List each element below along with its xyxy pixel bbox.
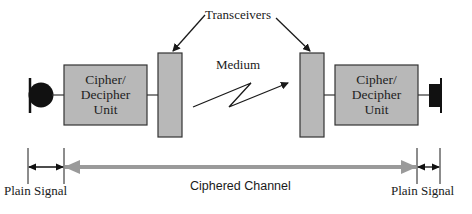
right-unit-line3: Unit	[335, 102, 418, 117]
right-unit-line2: Decipher	[335, 87, 418, 102]
speaker-icon	[429, 78, 441, 113]
right-unit-line1: Cipher/	[335, 72, 418, 87]
right-cipher-unit-label: Cipher/ Decipher Unit	[335, 72, 418, 117]
plain-signal-left-label: Plain Signal	[4, 184, 67, 197]
medium-label: Medium	[216, 58, 260, 71]
microphone-icon	[29, 78, 54, 113]
plain-signal-right-label: Plain Signal	[391, 184, 454, 197]
transceivers-pointer-right	[276, 18, 310, 51]
left-unit-line3: Unit	[64, 102, 147, 117]
left-transceiver-box	[158, 53, 182, 137]
right-transceiver-box	[300, 53, 324, 137]
left-unit-line1: Cipher/	[64, 72, 147, 87]
left-unit-line2: Decipher	[64, 87, 147, 102]
ciphered-channel-label: Ciphered Channel	[190, 180, 291, 193]
left-cipher-unit-label: Cipher/ Decipher Unit	[64, 72, 147, 117]
medium-zigzag-arrow	[193, 83, 288, 107]
transceivers-pointer-left	[173, 15, 205, 51]
transceivers-label: Transceivers	[205, 8, 271, 21]
